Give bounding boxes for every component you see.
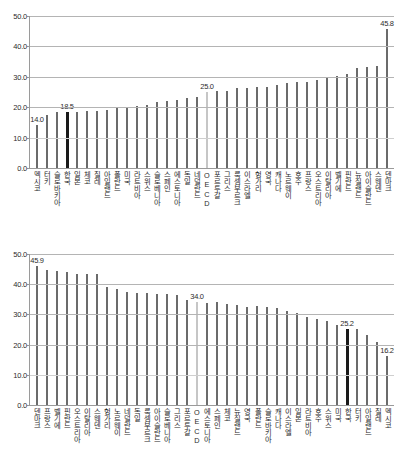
bar-멕시코[interactable] bbox=[36, 125, 39, 168]
bar-호주[interactable] bbox=[316, 319, 319, 405]
bar-slot[interactable] bbox=[342, 16, 352, 168]
bar-slot[interactable] bbox=[82, 254, 92, 405]
bar-slot[interactable] bbox=[222, 254, 232, 405]
bar-slot[interactable] bbox=[112, 254, 122, 405]
bar-호주[interactable] bbox=[296, 82, 299, 168]
bar-slot[interactable] bbox=[302, 16, 312, 168]
bar-slot[interactable] bbox=[292, 254, 302, 405]
bar-slot[interactable] bbox=[102, 16, 112, 168]
bar-slot[interactable] bbox=[332, 254, 342, 405]
bar-slot[interactable] bbox=[232, 254, 242, 405]
bar-한국[interactable] bbox=[66, 112, 69, 168]
bar-slot[interactable] bbox=[112, 16, 122, 168]
bar-스위스[interactable] bbox=[146, 105, 149, 169]
bar-slot[interactable] bbox=[232, 16, 242, 168]
bar-캐나다[interactable] bbox=[276, 308, 279, 406]
bar-이탈리아[interactable] bbox=[326, 77, 329, 168]
bar-slot[interactable] bbox=[172, 254, 182, 405]
bar-slot[interactable] bbox=[172, 16, 182, 168]
bar-스페인[interactable] bbox=[216, 302, 219, 405]
bar-그리스[interactable] bbox=[176, 295, 179, 405]
bar-slot[interactable] bbox=[182, 254, 192, 405]
bar-slot[interactable]: 45.9 bbox=[32, 254, 42, 405]
bar-슬로바키아[interactable] bbox=[56, 112, 59, 168]
bar-slot[interactable] bbox=[272, 254, 282, 405]
bar-OECD[interactable] bbox=[196, 302, 199, 405]
bar-slot[interactable] bbox=[272, 16, 282, 168]
bar-slot[interactable] bbox=[132, 254, 142, 405]
bar-slot[interactable] bbox=[362, 254, 372, 405]
bar-체코[interactable] bbox=[226, 304, 229, 405]
bar-스위스[interactable] bbox=[326, 321, 329, 405]
bar-칠레[interactable] bbox=[96, 111, 99, 169]
bar-slot[interactable] bbox=[372, 16, 382, 168]
bar-슬로베니아[interactable] bbox=[166, 294, 169, 405]
bar-칠레[interactable] bbox=[376, 342, 379, 405]
bar-slot[interactable] bbox=[242, 16, 252, 168]
bar-핀란드[interactable] bbox=[346, 74, 349, 169]
bar-이스라엘[interactable] bbox=[246, 88, 249, 168]
bar-영국[interactable] bbox=[246, 307, 249, 406]
bar-에스토니아[interactable] bbox=[206, 303, 209, 405]
bar-라트비아[interactable] bbox=[306, 317, 309, 405]
bar-멕시코[interactable] bbox=[386, 356, 389, 405]
bar-벨기에[interactable] bbox=[336, 76, 339, 168]
bar-핀란드[interactable] bbox=[66, 272, 69, 405]
bar-미국[interactable] bbox=[336, 325, 339, 405]
bar-slot[interactable] bbox=[372, 254, 382, 405]
bar-헝가리[interactable] bbox=[106, 287, 109, 405]
bar-이탈리아[interactable] bbox=[86, 274, 89, 405]
bar-이스라엘[interactable] bbox=[286, 311, 289, 406]
bar-slot[interactable]: 14.0 bbox=[32, 16, 42, 168]
bar-오스트리아[interactable] bbox=[316, 80, 319, 168]
bar-slot[interactable] bbox=[212, 254, 222, 405]
bar-그리스[interactable] bbox=[226, 91, 229, 169]
bar-벨기에[interactable] bbox=[56, 271, 59, 405]
bar-slot[interactable] bbox=[312, 254, 322, 405]
bar-네덜란드[interactable] bbox=[126, 292, 129, 405]
bar-스웨덴[interactable] bbox=[96, 274, 99, 405]
bar-slot[interactable] bbox=[182, 16, 192, 168]
bar-slot[interactable] bbox=[52, 16, 62, 168]
bar-스웨덴[interactable] bbox=[376, 66, 379, 168]
bar-터키[interactable] bbox=[46, 115, 49, 168]
bar-slot[interactable] bbox=[212, 16, 222, 168]
bar-룩셈부르크[interactable] bbox=[146, 293, 149, 405]
bar-에스토니아[interactable] bbox=[176, 100, 179, 168]
bar-영국[interactable] bbox=[266, 87, 269, 168]
bar-slot[interactable] bbox=[352, 254, 362, 405]
bar-slot[interactable] bbox=[282, 254, 292, 405]
bar-폴란드[interactable] bbox=[256, 306, 259, 405]
bar-slot[interactable] bbox=[202, 254, 212, 405]
bar-일본[interactable] bbox=[76, 112, 79, 168]
bar-slot[interactable] bbox=[102, 254, 112, 405]
bar-헝가리[interactable] bbox=[256, 87, 259, 168]
bar-slot[interactable] bbox=[72, 16, 82, 168]
bar-slot[interactable] bbox=[352, 16, 362, 168]
bar-slot[interactable] bbox=[122, 254, 132, 405]
bar-slot[interactable] bbox=[152, 16, 162, 168]
bar-체코[interactable] bbox=[86, 111, 89, 169]
bar-slot[interactable]: 16.2 bbox=[382, 254, 392, 405]
bar-slot[interactable] bbox=[152, 254, 162, 405]
bar-독일[interactable] bbox=[136, 293, 139, 405]
bar-아일랜드[interactable] bbox=[106, 110, 109, 168]
bar-뉴질랜드[interactable] bbox=[356, 68, 359, 168]
bar-slot[interactable] bbox=[192, 16, 202, 168]
bar-포르투갈[interactable] bbox=[216, 91, 219, 168]
bar-slot[interactable] bbox=[92, 254, 102, 405]
bar-룩셈부르크[interactable] bbox=[236, 88, 239, 168]
bar-slot[interactable]: 34.0 bbox=[192, 254, 202, 405]
bar-일본[interactable] bbox=[296, 313, 299, 405]
bar-slot[interactable]: 18.5 bbox=[62, 16, 72, 168]
bar-slot[interactable] bbox=[252, 254, 262, 405]
bar-slot[interactable] bbox=[312, 16, 322, 168]
bar-스페인[interactable] bbox=[166, 101, 169, 169]
bar-slot[interactable] bbox=[162, 16, 172, 168]
bar-노르웨이[interactable] bbox=[116, 289, 119, 405]
bar-slot[interactable] bbox=[302, 254, 312, 405]
bar-slot[interactable] bbox=[62, 254, 72, 405]
bar-slot[interactable] bbox=[322, 16, 332, 168]
bar-slot[interactable] bbox=[242, 254, 252, 405]
bar-slot[interactable] bbox=[132, 16, 142, 168]
